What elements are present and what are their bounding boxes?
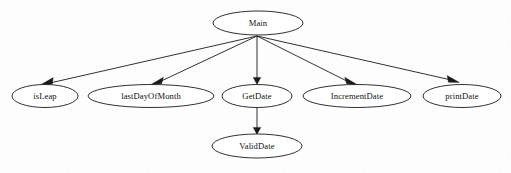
arrow-head-icon — [447, 76, 459, 83]
node-label: lastDayOfMonth — [121, 91, 181, 101]
node-printdate[interactable]: printDate — [423, 85, 501, 108]
edge-getdate-to-validdate — [253, 108, 261, 134]
edge-line — [257, 36, 452, 80]
node-getdate[interactable]: GetDate — [222, 85, 292, 108]
edge-main-to-lastdayofmonth — [151, 36, 257, 85]
arrow-head-icon — [253, 127, 261, 134]
arrow-head-icon — [151, 77, 163, 84]
node-lastdayofmonth[interactable]: lastDayOfMonth — [88, 85, 214, 108]
node-label: isLeap — [33, 91, 57, 101]
edge-main-to-printdate — [257, 36, 459, 82]
node-label: printDate — [445, 91, 478, 101]
diagram-canvas: Main isLeap lastDayOfMonth GetDate Incre… — [0, 0, 511, 173]
node-layer: Main isLeap lastDayOfMonth GetDate Incre… — [12, 11, 501, 158]
edge-main-to-incrementdate — [257, 36, 357, 85]
node-label: GetDate — [242, 91, 271, 101]
node-main[interactable]: Main — [213, 11, 303, 35]
edge-main-to-isleap — [41, 36, 257, 85]
arrow-head-icon — [345, 77, 357, 84]
edge-line — [158, 36, 257, 83]
edge-line — [49, 36, 257, 83]
arrow-head-icon — [253, 77, 261, 84]
node-label: ValidDate — [239, 141, 274, 151]
edge-line — [257, 36, 350, 83]
edge-main-to-getdate — [253, 36, 261, 85]
node-validdate[interactable]: ValidDate — [212, 134, 302, 158]
node-incrementdate[interactable]: IncrementDate — [303, 85, 411, 108]
node-isleap[interactable]: isLeap — [12, 85, 78, 108]
arrow-head-icon — [41, 78, 53, 85]
call-graph: Main isLeap lastDayOfMonth GetDate Incre… — [0, 0, 511, 173]
node-label: Main — [249, 18, 268, 28]
node-label: IncrementDate — [331, 91, 383, 101]
